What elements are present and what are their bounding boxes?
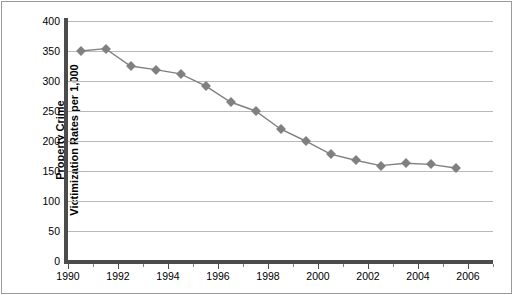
series-line: [68, 21, 493, 261]
x-axis-tick: [418, 264, 419, 269]
x-axis-tick-label: 2006: [456, 271, 479, 282]
x-axis-tick: [368, 264, 369, 269]
x-axis-tick-label: 1996: [206, 271, 229, 282]
y-axis-tick-label: 200: [20, 136, 60, 147]
x-axis-minor-tick: [243, 264, 244, 267]
x-axis-tick: [318, 264, 319, 269]
x-axis-tick: [268, 264, 269, 269]
x-axis-minor-tick: [443, 264, 444, 267]
y-axis-tick-labels: 400350300250200150100500: [16, 0, 60, 295]
x-axis-tick-label: 2004: [406, 271, 429, 282]
x-axis-tick: [218, 264, 219, 269]
x-axis-tick: [68, 264, 69, 269]
x-axis-minor-tick: [93, 264, 94, 267]
x-axis-tick: [468, 264, 469, 269]
y-axis-tick-label: 0: [20, 256, 60, 267]
x-axis-tick-label: 2002: [356, 271, 379, 282]
x-axis-minor-tick: [343, 264, 344, 267]
x-axis-minor-tick: [193, 264, 194, 267]
x-axis-minor-tick: [143, 264, 144, 267]
y-axis-line: [64, 18, 68, 264]
x-axis-tick-label: 1994: [156, 271, 179, 282]
y-axis-tick-label: 150: [20, 166, 60, 177]
x-axis-tick-label: 2000: [306, 271, 329, 282]
x-axis-tick-label: 1992: [106, 271, 129, 282]
y-axis-tick-label: 100: [20, 196, 60, 207]
y-axis-tick-label: 250: [20, 106, 60, 117]
x-axis-line: [64, 260, 493, 264]
x-axis-tick: [118, 264, 119, 269]
chart-figure: Property Crime Victimization Rates per 1…: [0, 0, 513, 295]
x-axis-minor-tick: [293, 264, 294, 267]
y-axis-tick-label: 350: [20, 46, 60, 57]
y-axis-tick-label: 400: [20, 16, 60, 27]
x-axis-minor-tick: [393, 264, 394, 267]
x-axis-tick-label: 1990: [56, 271, 79, 282]
x-axis-tick: [168, 264, 169, 269]
x-axis-tick-label: 1998: [256, 271, 279, 282]
y-axis-tick-label: 50: [20, 226, 60, 237]
y-axis-tick-label: 300: [20, 76, 60, 87]
plot-area: [68, 21, 493, 261]
x-axis-minor-tick: [493, 264, 494, 267]
